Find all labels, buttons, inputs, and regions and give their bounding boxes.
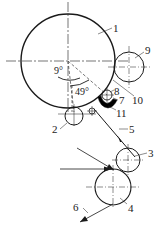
leader-3 — [135, 153, 147, 156]
roller-9 — [114, 52, 144, 82]
label-7: 7 — [119, 94, 125, 106]
angle-line-9deg — [68, 61, 74, 112]
leader-9 — [135, 52, 144, 58]
arrowhead-web-5 — [118, 136, 122, 142]
leader-2 — [60, 123, 67, 129]
arrowhead-web-6 — [80, 216, 88, 222]
label-1: 1 — [113, 22, 119, 34]
label-9: 9 — [145, 44, 151, 56]
leader-6 — [83, 208, 88, 213]
roller-diagram: 1 9 8 7 10 11 2 5 3 6 4 9° 49° — [0, 0, 164, 229]
label-11: 11 — [116, 107, 127, 119]
label-3: 3 — [148, 147, 154, 159]
label-4: 4 — [128, 202, 134, 214]
label-6: 6 — [73, 201, 79, 213]
label-10: 10 — [132, 94, 144, 106]
angle-label-49: 49° — [75, 86, 89, 97]
label-2: 2 — [52, 123, 58, 135]
angle-label-9: 9° — [54, 65, 63, 76]
angle-arc-9 — [58, 77, 80, 80]
block-7 — [98, 96, 117, 108]
label-5: 5 — [129, 123, 135, 135]
